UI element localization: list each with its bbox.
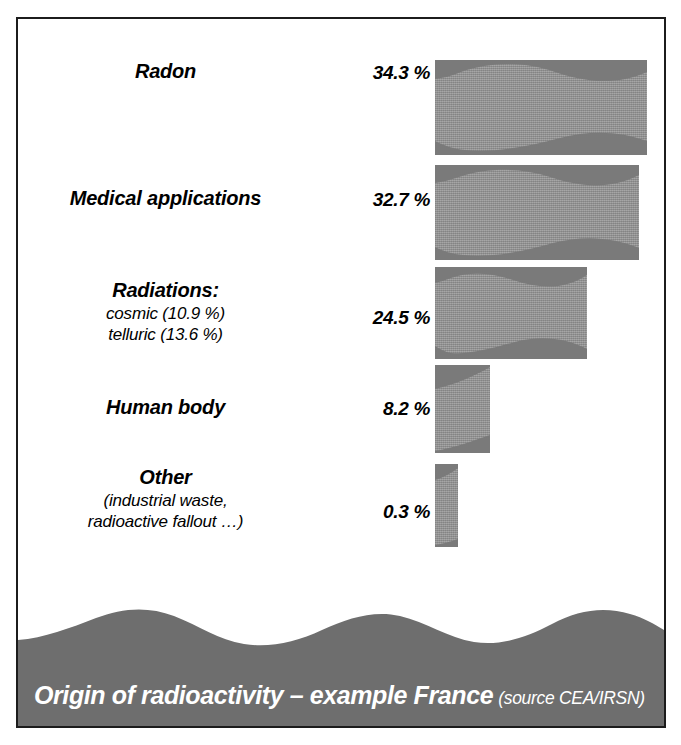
bar-wave-top-icon [435, 365, 490, 391]
bar-wave-top-icon [435, 267, 587, 293]
row-subline: telluric (13.6 %) [18, 324, 313, 345]
bar [435, 365, 490, 453]
row-percent: 24.5 % [318, 307, 430, 329]
bar-wave-top-icon [435, 165, 639, 191]
row-label: Human body [18, 396, 313, 420]
row-subline: cosmic (10.9 %) [18, 303, 313, 324]
row-label: Other [18, 466, 313, 490]
row-label-block: Medical applications [18, 187, 313, 211]
bar-wave-bottom-icon [435, 129, 647, 155]
row-label-block: Radon [18, 60, 313, 84]
row-label: Medical applications [18, 187, 313, 211]
chart-row: Human body 8.2 % [18, 365, 664, 464]
footer-band: Origin of radioactivity – example France… [18, 596, 664, 726]
row-percent: 0.3 % [318, 501, 430, 523]
bar [435, 60, 647, 155]
row-percent: 32.7 % [318, 189, 430, 211]
row-percent: 34.3 % [318, 62, 430, 84]
row-percent: 8.2 % [318, 398, 430, 420]
bar-wave-bottom-icon [435, 531, 458, 547]
row-label-block: Other (industrial waste, radioactive fal… [18, 466, 313, 532]
chart-row: Radiations: cosmic (10.9 %) telluric (13… [18, 265, 664, 365]
bar-wave-bottom-icon [435, 427, 490, 453]
row-label: Radon [18, 60, 313, 84]
bar-wave-bottom-icon [435, 234, 639, 260]
row-subline: radioactive fallout …) [18, 511, 313, 532]
bar [435, 267, 587, 359]
footer-caption: Origin of radioactivity – example France… [34, 681, 654, 710]
chart-row: Medical applications 32.7 % [18, 155, 664, 265]
bar [435, 464, 458, 547]
footer-source: (source CEA/IRSN) [498, 688, 645, 708]
row-subline: (industrial waste, [18, 490, 313, 511]
chart-figure: Radon 34.3 % Medical applications 32.7 % [16, 17, 666, 728]
chart-row: Radon 34.3 % [18, 19, 664, 155]
bar-rows-container: Radon 34.3 % Medical applications 32.7 % [18, 19, 664, 599]
bar-wave-top-icon [435, 464, 458, 484]
row-label-block: Human body [18, 396, 313, 420]
chart-row: Other (industrial waste, radioactive fal… [18, 464, 664, 564]
bar [435, 165, 639, 260]
row-label-block: Radiations: cosmic (10.9 %) telluric (13… [18, 279, 313, 345]
bar-wave-bottom-icon [435, 333, 587, 359]
bar-wave-top-icon [435, 60, 647, 86]
footer-title: Origin of radioactivity – example France [34, 681, 493, 709]
row-label: Radiations: [18, 279, 313, 303]
